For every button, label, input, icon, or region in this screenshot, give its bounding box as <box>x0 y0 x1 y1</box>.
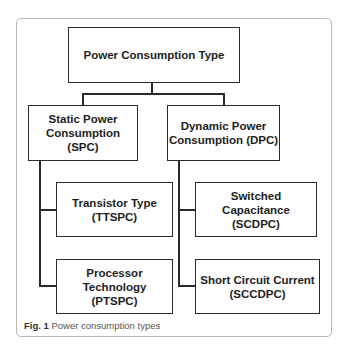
ptspc-line1: Processor Technology <box>57 266 172 294</box>
connector-spc-vertical <box>39 161 41 286</box>
sccdpc-node: Short Circuit Current (SCCDPC) <box>195 259 320 314</box>
ttspc-node: Transistor Type (TTSPC) <box>56 182 173 237</box>
spc-line2: Consumption (SPC) <box>29 126 137 154</box>
connector-dpc-up <box>223 93 225 105</box>
root-label: Power Consumption Type <box>84 48 225 62</box>
connector-dpc-vertical <box>178 161 180 286</box>
connector-scdpc <box>178 209 195 211</box>
connector-root-horizontal <box>82 93 224 95</box>
connector-spc-up <box>82 93 84 105</box>
connector-ttspc <box>39 209 56 211</box>
ttspc-line1: Transistor Type <box>72 196 157 210</box>
dpc-node: Dynamic Power Consumption (DPC) <box>167 105 280 161</box>
scdpc-line1: Switched Capacitance <box>196 189 316 217</box>
ptspc-line2: (PTSPC) <box>57 294 172 308</box>
caption-label: Fig. 1 <box>24 320 49 331</box>
scdpc-node: Switched Capacitance (SCDPC) <box>195 182 317 237</box>
sccdpc-line2: (SCCDPC) <box>200 287 314 301</box>
caption-text: Power consumption types <box>49 320 160 331</box>
connector-sccdpc <box>178 285 195 287</box>
dpc-line2: Consumption (DPC) <box>169 133 278 147</box>
spc-line1: Static Power <box>29 112 137 126</box>
sccdpc-line1: Short Circuit Current <box>200 273 314 287</box>
dpc-line1: Dynamic Power <box>169 119 278 133</box>
spc-node: Static Power Consumption (SPC) <box>28 105 138 161</box>
connector-ptspc <box>39 285 56 287</box>
scdpc-line2: (SCDPC) <box>196 217 316 231</box>
figure-caption: Fig. 1 Power consumption types <box>24 320 160 331</box>
root-node: Power Consumption Type <box>68 27 240 83</box>
ptspc-node: Processor Technology (PTSPC) <box>56 259 173 314</box>
ttspc-line2: (TTSPC) <box>72 210 157 224</box>
